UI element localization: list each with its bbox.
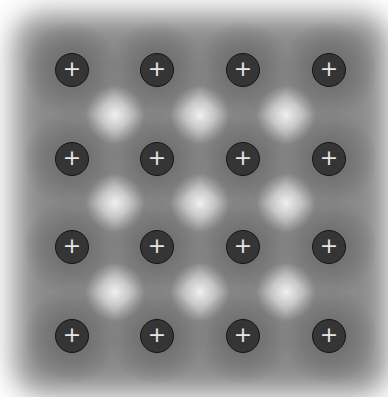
positive-ion: + [226,53,260,87]
plus-icon: + [148,235,166,257]
plus-icon: + [320,235,338,257]
positive-ion: + [312,142,346,176]
positive-ion: + [140,53,174,87]
plus-icon: + [320,58,338,80]
positive-ion: + [140,319,174,353]
positive-ion: + [312,319,346,353]
positive-ion: + [55,53,89,87]
plus-icon: + [320,324,338,346]
plus-icon: + [63,324,81,346]
positive-ion: + [226,230,260,264]
positive-ion: + [140,230,174,264]
plus-icon: + [148,58,166,80]
plus-icon: + [148,147,166,169]
plus-icon: + [148,324,166,346]
plus-icon: + [63,147,81,169]
positive-ion: + [55,142,89,176]
plus-icon: + [234,235,252,257]
plus-icon: + [320,147,338,169]
positive-ion: + [55,230,89,264]
positive-ion: + [312,230,346,264]
plus-icon: + [63,235,81,257]
plus-icon: + [234,58,252,80]
plus-icon: + [234,147,252,169]
plus-icon: + [234,324,252,346]
positive-ion: + [312,53,346,87]
plus-icon: + [63,58,81,80]
positive-ion: + [226,142,260,176]
positive-ion: + [55,319,89,353]
positive-ion: + [226,319,260,353]
positive-ion: + [140,142,174,176]
